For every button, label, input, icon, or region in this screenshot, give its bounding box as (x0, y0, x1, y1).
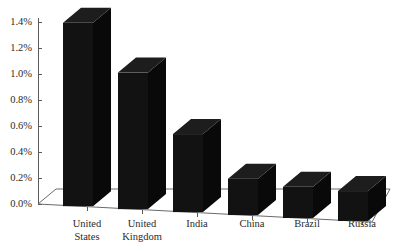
y-axis-tick-label: 0.4% (10, 146, 32, 157)
chart-canvas: 0.0%0.2%0.4%0.6%0.8%1.0%1.2%1.4%UnitedSt… (0, 0, 408, 248)
bar-russia (338, 176, 386, 221)
x-axis-category-label: India (186, 218, 208, 229)
bar-united-kingdom (118, 58, 166, 210)
x-axis-category-label: United (128, 218, 157, 229)
bar-india (173, 119, 221, 212)
bar-front-face (283, 187, 313, 218)
x-axis-category-label: States (74, 231, 99, 242)
bar-front-face (118, 73, 148, 210)
y-axis-tick-label: 0.2% (10, 172, 32, 183)
bar-side-face (203, 119, 221, 212)
bar-side-face (93, 8, 111, 206)
y-axis-tick-label: 0.0% (10, 198, 32, 209)
x-axis-category-label: China (239, 218, 264, 229)
y-axis-tick-label: 0.8% (10, 94, 32, 105)
floor-left-diagonal (38, 189, 56, 204)
bar-front-face (63, 23, 93, 206)
bar-side-face (148, 58, 166, 210)
x-axis-category-label: Kingdom (122, 231, 162, 242)
bar-front-face (228, 179, 258, 215)
bar-united-states (63, 8, 111, 206)
y-axis-tick-label: 1.4% (10, 16, 32, 27)
y-axis-tick-label: 0.6% (10, 120, 32, 131)
bar-front-face (338, 191, 368, 221)
y-axis-tick-label: 1.2% (10, 42, 32, 53)
bar-chart: 0.0%0.2%0.4%0.6%0.8%1.0%1.2%1.4%UnitedSt… (0, 0, 408, 248)
bar-brazil (283, 172, 331, 218)
x-axis-category-label: United (73, 218, 102, 229)
bar-front-face (173, 134, 203, 212)
x-axis-category-label: Brazil (294, 218, 320, 229)
bar-china (228, 164, 276, 215)
y-axis-tick-label: 1.0% (10, 68, 32, 79)
x-axis-category-label: Russia (348, 218, 376, 229)
